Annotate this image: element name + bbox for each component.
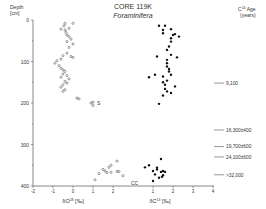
y-axis-unit: [cm]: [10, 10, 20, 16]
data-point-filled: [168, 70, 170, 72]
data-point-open: [66, 40, 68, 42]
y-tick-label: 200: [21, 100, 30, 106]
data-point-open: [110, 164, 112, 166]
data-point-open: [64, 89, 66, 91]
data-point-open: [98, 172, 100, 174]
data-point-open: [64, 80, 66, 82]
data-point-filled: [170, 74, 172, 76]
data-point-open: [60, 86, 62, 88]
data-point-filled: [156, 167, 158, 169]
age-annotations: 9,10016,300±40019,700±60024,100±600>32,0…: [214, 81, 252, 178]
data-point-open: [66, 75, 68, 77]
data-point-open: [60, 58, 62, 60]
x-tick-label-oxygen: -1: [51, 189, 55, 194]
data-point-open: [56, 60, 58, 62]
y-tick-label: 300: [21, 142, 30, 148]
data-point-filled: [154, 74, 156, 76]
data-point-open: [62, 73, 64, 75]
data-point-filled: [170, 28, 172, 30]
x-tick-label-oxygen: 1: [92, 189, 95, 194]
data-point-open: [62, 84, 64, 86]
data-point-filled: [166, 49, 168, 51]
data-point-open: [60, 28, 62, 30]
data-point-filled: [170, 40, 172, 42]
data-point-filled: [158, 103, 160, 105]
x-tick-label-carbon: 4: [212, 189, 215, 194]
data-point-filled: [178, 35, 180, 37]
data-point-filled: [166, 90, 168, 92]
data-point-filled: [148, 164, 150, 166]
data-point-open: [63, 25, 65, 27]
data-point-open: [92, 101, 94, 103]
series-carbon-filled-circles: [144, 25, 180, 183]
marker-label: CC: [131, 180, 139, 186]
data-point-open: [72, 56, 74, 58]
data-point-filled: [156, 55, 158, 57]
x-tick-label-oxygen: 0: [72, 189, 75, 194]
data-point-filled: [164, 25, 166, 27]
x-tick-label-carbon: 3: [192, 189, 195, 194]
x-tick-label-oxygen: 2: [112, 189, 115, 194]
x-axis-label-oxygen: δO18 [‰]: [62, 198, 84, 204]
data-point-filled: [168, 68, 170, 70]
y-tick-label: 100: [21, 59, 30, 65]
data-point-open: [60, 67, 62, 69]
chart-title: CORE 119K: [114, 3, 152, 10]
data-point-open: [62, 90, 64, 92]
data-point-filled: [162, 75, 164, 77]
data-point-open: [108, 166, 110, 168]
data-point-filled: [164, 171, 166, 173]
data-point-filled: [154, 173, 156, 175]
data-point-open: [64, 22, 66, 24]
data-point-filled: [168, 45, 170, 47]
data-point-open: [122, 175, 124, 177]
x-axis-label-carbon: δC13 [‰]: [149, 198, 171, 204]
data-point-filled: [166, 59, 168, 61]
x-ticks: -2-10121234: [31, 186, 215, 194]
marker-label: S: [97, 100, 101, 106]
age-label: 16,300±400: [226, 128, 252, 133]
data-point-filled: [162, 32, 164, 34]
data-point-open: [66, 34, 68, 36]
y-tick-label: 400: [21, 183, 30, 189]
data-point-filled: [170, 92, 172, 94]
data-point-open: [106, 172, 108, 174]
data-point-filled: [152, 180, 154, 182]
data-point-open: [94, 179, 96, 181]
data-point-filled: [166, 79, 168, 81]
data-point-open: [68, 78, 70, 80]
data-point-open: [60, 76, 62, 78]
data-point-open: [116, 160, 118, 162]
y-ticks: 0100200300400: [21, 17, 33, 189]
x-tick-label-oxygen: -2: [31, 189, 35, 194]
data-point-open: [78, 98, 80, 100]
data-point-open: [65, 31, 67, 33]
data-point-filled: [170, 37, 172, 39]
data-point-filled: [162, 81, 164, 83]
data-point-open: [58, 65, 60, 67]
data-point-open: [54, 62, 56, 64]
age-label: >32,000: [226, 173, 244, 178]
data-point-filled: [172, 34, 174, 36]
series-oxygen-open-circles: [54, 22, 124, 181]
data-point-filled: [152, 170, 154, 172]
data-point-open: [72, 22, 74, 24]
data-point-open: [72, 43, 74, 45]
data-point-open: [64, 29, 66, 31]
data-point-filled: [162, 29, 164, 31]
data-point-open: [104, 170, 106, 172]
data-point-filled: [160, 158, 162, 160]
y-tick-label: 0: [26, 17, 29, 23]
data-point-filled: [144, 166, 146, 168]
data-point-open: [68, 27, 70, 29]
data-point-open: [66, 52, 68, 54]
data-point-filled: [161, 176, 163, 178]
data-point-filled: [162, 94, 164, 96]
x-tick-label-carbon: 2: [172, 189, 175, 194]
data-point-filled: [166, 62, 168, 64]
data-point-open: [64, 70, 66, 72]
data-point-filled: [158, 25, 160, 27]
data-point-filled: [148, 76, 150, 78]
data-point-open: [110, 171, 112, 173]
data-point-open: [66, 82, 68, 84]
